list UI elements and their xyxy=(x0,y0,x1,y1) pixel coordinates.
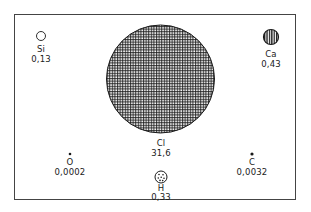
circles-canvas xyxy=(0,0,311,212)
o-label: O 0,0002 xyxy=(40,157,100,177)
ca-value: 0,43 xyxy=(241,59,301,69)
h-label: H 0,33 xyxy=(131,184,191,202)
c-label: C 0,0032 xyxy=(222,157,282,177)
h-value: 0,33 xyxy=(131,193,191,202)
si-circle-icon xyxy=(37,32,46,41)
si-label: Si 0,13 xyxy=(11,44,71,64)
si-symbol: Si xyxy=(11,44,71,54)
c-value: 0,0032 xyxy=(222,167,282,177)
cl-symbol: Cl xyxy=(131,138,191,148)
h-dotted-circle-icon xyxy=(155,171,167,183)
cl-value: 31,6 xyxy=(131,148,191,158)
cl-label: Cl 31,6 xyxy=(131,138,191,158)
o-value: 0,0002 xyxy=(40,167,100,177)
ca-symbol: Ca xyxy=(241,49,301,59)
c-dot-icon xyxy=(250,152,253,155)
c-symbol: C xyxy=(222,157,282,167)
si-value: 0,13 xyxy=(11,54,71,64)
cl-circle-icon xyxy=(107,25,215,133)
ca-label: Ca 0,43 xyxy=(241,49,301,69)
o-symbol: O xyxy=(40,157,100,167)
o-dot-icon xyxy=(69,153,72,156)
ca-circle-icon xyxy=(264,30,279,45)
